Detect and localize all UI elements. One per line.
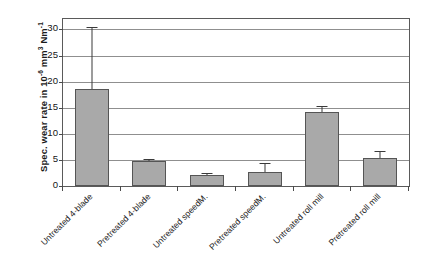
x-axis-tick-labels: Untreated 4-bladePretreated 4-bladeUntre… bbox=[0, 0, 421, 274]
bar-chart: Spec. wear rate in 10-6 mm3 Nm-1 0510152… bbox=[0, 0, 421, 274]
